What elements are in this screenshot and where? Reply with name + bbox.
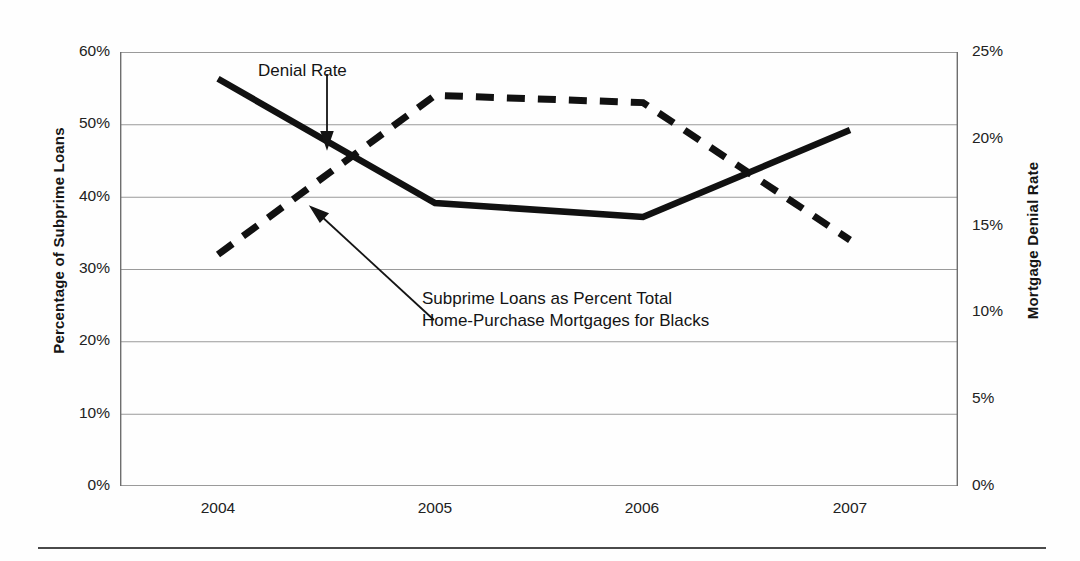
- right-tick-20: 20%: [972, 129, 1036, 147]
- annotation-denial-rate: Denial Rate: [258, 60, 347, 82]
- subprime-leader-arrow: [311, 207, 434, 320]
- x-tick-2005: 2005: [375, 499, 495, 517]
- x-tick-2004: 2004: [158, 499, 278, 517]
- left-tick-20: 20%: [46, 331, 110, 349]
- chart-figure: Percentage of Subprime Loans Mortgage De…: [0, 0, 1080, 561]
- bottom-divider: [38, 547, 1046, 549]
- left-tick-40: 40%: [46, 187, 110, 205]
- left-tick-10: 10%: [46, 404, 110, 422]
- left-tick-0: 0%: [46, 476, 110, 494]
- right-tick-25: 25%: [972, 42, 1036, 60]
- series-denial-rate-line: [218, 79, 850, 217]
- series-subprime-share-line: [218, 95, 850, 254]
- right-tick-0: 0%: [972, 476, 1036, 494]
- gridlines: [120, 53, 958, 486]
- plot-area: [120, 52, 958, 486]
- left-tick-30: 30%: [46, 259, 110, 277]
- annotation-subprime-line-1: Subprime Loans as Percent Total: [422, 288, 709, 310]
- x-tick-2006: 2006: [582, 499, 702, 517]
- denial-rate-leader-arrow: [322, 74, 333, 148]
- annotation-subprime-share: Subprime Loans as Percent Total Home-Pur…: [422, 288, 709, 332]
- left-tick-50: 50%: [46, 114, 110, 132]
- left-tick-60: 60%: [46, 42, 110, 60]
- x-tick-2007: 2007: [790, 499, 910, 517]
- chart-svg: [120, 52, 958, 486]
- right-tick-10: 10%: [972, 302, 1036, 320]
- right-tick-5: 5%: [972, 389, 1036, 407]
- right-tick-15: 15%: [972, 216, 1036, 234]
- annotation-subprime-line-2: Home-Purchase Mortgages for Blacks: [422, 310, 709, 332]
